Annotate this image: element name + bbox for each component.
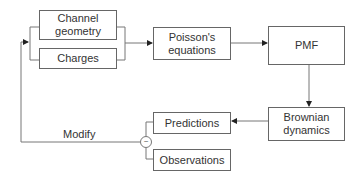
node-label: Charges bbox=[57, 52, 99, 65]
node-predictions: Predictions bbox=[153, 112, 231, 134]
node-label: Observations bbox=[160, 154, 225, 167]
node-channel-geometry: Channel geometry bbox=[39, 10, 117, 40]
node-brownian-dynamics: Brownian dynamics bbox=[268, 107, 345, 141]
node-pmf: PMF bbox=[268, 26, 345, 65]
node-label: Predictions bbox=[165, 117, 219, 130]
feedback-label: Modify bbox=[63, 128, 95, 140]
node-poisson-equations: Poisson's equations bbox=[153, 27, 231, 60]
tilde-icon: ~ bbox=[144, 138, 149, 146]
node-charges: Charges bbox=[39, 48, 117, 69]
node-label: Channel geometry bbox=[40, 12, 116, 38]
comparator-circle: ~ bbox=[140, 136, 152, 148]
node-label: PMF bbox=[295, 39, 318, 52]
node-label: Brownian dynamics bbox=[269, 111, 344, 137]
node-observations: Observations bbox=[153, 149, 231, 171]
node-label: Poisson's equations bbox=[154, 31, 230, 57]
